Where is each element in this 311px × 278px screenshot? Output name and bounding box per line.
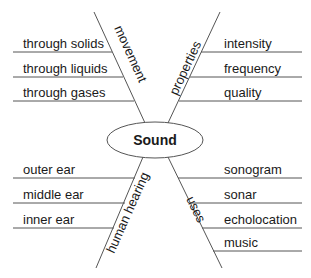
center-label: Sound	[133, 132, 177, 148]
detail-text: through gases	[23, 85, 106, 100]
detail-text: sonar	[224, 187, 257, 202]
detail-text: sonogram	[224, 162, 282, 177]
spider-map: Sound movement through solids through li…	[0, 0, 311, 278]
detail-text: frequency	[224, 61, 282, 76]
branch-line	[168, 12, 220, 123]
center-node: Sound	[107, 122, 203, 158]
detail-text: music	[224, 235, 258, 250]
branch-label: uses	[183, 194, 209, 226]
branch-uses: uses sonogram sonar echolocation music	[168, 157, 302, 268]
branch-label: movement	[111, 23, 150, 85]
detail-text: echolocation	[224, 212, 297, 227]
detail-text: intensity	[224, 36, 272, 51]
detail-text: through solids	[23, 36, 104, 51]
detail-text: through liquids	[23, 61, 108, 76]
detail-text: outer ear	[23, 162, 76, 177]
branch-properties: properties intensity frequency quality	[166, 12, 302, 123]
detail-text: quality	[224, 85, 262, 100]
branch-human-hearing: human hearing outer ear middle ear inner…	[13, 157, 152, 268]
branch-movement: movement through solids through liquids …	[13, 12, 150, 123]
branch-label: properties	[166, 38, 204, 97]
branch-label: human hearing	[103, 170, 152, 255]
detail-text: inner ear	[23, 212, 75, 227]
detail-text: middle ear	[23, 187, 84, 202]
